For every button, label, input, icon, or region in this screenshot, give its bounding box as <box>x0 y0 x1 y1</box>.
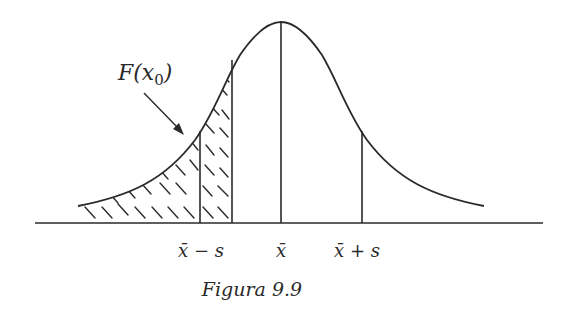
label-mean-plus-s: x̄ + s <box>334 240 380 261</box>
label-mean: x̄ <box>276 240 286 261</box>
arrow-icon <box>144 93 184 135</box>
hatched-area-f-x0 <box>85 72 229 218</box>
normal-distribution-diagram: F(x0) x̄ − s x̄ x̄ + s Figura 9.9 <box>0 0 573 314</box>
figure-caption: Figura 9.9 <box>201 278 302 300</box>
annotation-f-x0: F(x0) <box>117 60 172 89</box>
label-mean-minus-s: x̄ − s <box>178 240 224 261</box>
